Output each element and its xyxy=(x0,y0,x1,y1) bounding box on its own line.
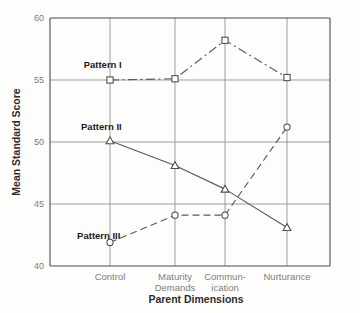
data-series xyxy=(106,37,291,245)
y-tick-label: 40 xyxy=(34,261,44,271)
y-tick-label: 45 xyxy=(34,199,44,209)
data-point-circle xyxy=(284,124,290,130)
data-point-triangle xyxy=(283,224,291,231)
y-tick-label: 55 xyxy=(34,75,44,85)
x-tick-labels: ControlMaturityDemandsCommun-icationNurt… xyxy=(95,271,311,293)
x-category-label: Maturity xyxy=(158,271,192,282)
x-category-label: Demands xyxy=(155,282,196,293)
data-point-square xyxy=(107,77,113,83)
series-label-1: Pattern I xyxy=(84,59,122,70)
data-point-circle xyxy=(222,212,228,218)
line-chart: 4045505560 ControlMaturityDemandsCommun-… xyxy=(0,0,360,313)
series-1 xyxy=(107,37,290,83)
y-tick-label: 60 xyxy=(34,13,44,23)
y-tick-label: 50 xyxy=(34,137,44,147)
x-axis-title: Parent Dimensions xyxy=(148,293,243,305)
y-axis-title: Mean Standard Score xyxy=(10,88,22,196)
series-2 xyxy=(106,137,291,231)
x-category-label: ication xyxy=(211,282,238,293)
data-point-triangle xyxy=(221,185,229,192)
data-point-square xyxy=(172,76,178,82)
chart-figure: 4045505560 ControlMaturityDemandsCommun-… xyxy=(0,0,360,313)
series-line xyxy=(110,127,287,242)
data-point-triangle xyxy=(106,137,114,144)
series-line xyxy=(110,40,287,80)
x-category-label: Commun- xyxy=(204,271,246,282)
data-point-square xyxy=(284,74,290,80)
y-tick-labels: 4045505560 xyxy=(34,13,44,271)
x-category-label: Control xyxy=(95,271,126,282)
data-point-circle xyxy=(172,212,178,218)
x-category-label: Nurturance xyxy=(264,271,311,282)
series-line xyxy=(110,141,287,228)
data-point-square xyxy=(222,37,228,43)
series-label-2: Pattern II xyxy=(81,121,122,132)
series-label-3: Pattern III xyxy=(77,230,120,241)
series-labels: Pattern IPattern IIPattern III xyxy=(77,59,122,241)
